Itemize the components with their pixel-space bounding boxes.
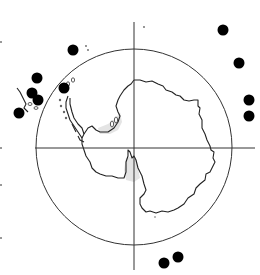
- site-marker: [33, 95, 44, 106]
- island-speck: [143, 26, 145, 28]
- site-marker: [173, 252, 184, 263]
- antarctica-map: [0, 0, 260, 275]
- island-speck: [65, 117, 67, 119]
- island-speck: [59, 99, 61, 101]
- antarctic-peninsula-east: [70, 98, 84, 134]
- site-marker: [244, 95, 255, 106]
- site-marker: [59, 83, 70, 94]
- island: [110, 121, 113, 127]
- antarctica-coastline: [82, 80, 215, 213]
- island: [34, 107, 38, 110]
- island-speck: [60, 105, 62, 107]
- island: [114, 117, 117, 123]
- site-marker: [68, 45, 79, 56]
- site-marker: [218, 25, 229, 36]
- site-marker: [244, 111, 255, 122]
- site-marker: [234, 58, 245, 69]
- site-marker: [14, 108, 25, 119]
- island-speck: [154, 216, 156, 218]
- site-marker: [159, 258, 170, 269]
- island: [28, 103, 32, 106]
- island: [71, 78, 74, 82]
- island-speck: [85, 45, 87, 47]
- island-speck: [63, 111, 65, 113]
- island-speck: [87, 49, 89, 51]
- map-canvas: [0, 0, 260, 275]
- site-marker: [32, 73, 43, 84]
